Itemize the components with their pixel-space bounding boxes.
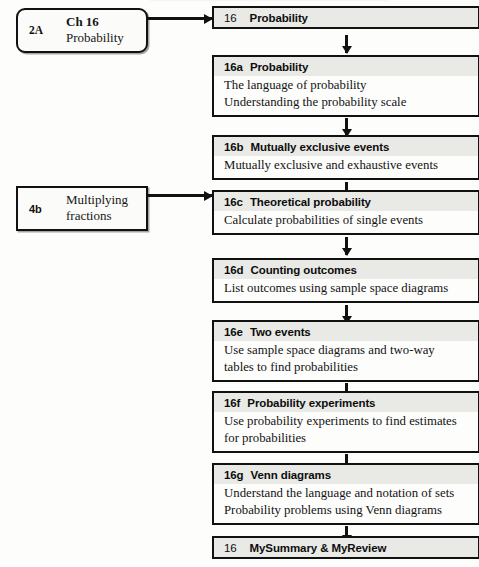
node-16[interactable]: 16Probability xyxy=(212,6,479,29)
node-16f-body: Use probability experiments to find esti… xyxy=(214,412,478,451)
node-16d-line-1: List outcomes using sample space diagram… xyxy=(224,280,470,297)
node-16b-title: Mutually exclusive events xyxy=(251,141,390,153)
node-16a-header: 16aProbability xyxy=(214,57,478,76)
prerequisite-box-4b[interactable]: 4b Multiplying fractions xyxy=(16,186,148,231)
arrow-16-to-16a xyxy=(345,35,348,53)
node-16e-line-1: Use sample space diagrams and two-way xyxy=(224,342,470,359)
arrow-4b-to-node-16c xyxy=(148,194,212,197)
node-16c-header: 16cTheoretical probability xyxy=(214,192,478,211)
node-16c[interactable]: 16cTheoretical probability Calculate pro… xyxy=(212,190,479,235)
node-16f-header: 16fProbability experiments xyxy=(214,393,478,412)
node-16c-body: Calculate probabilities of single events xyxy=(214,211,478,233)
node-16a-body: The language of probability Understandin… xyxy=(214,76,478,115)
node-16-header: 16Probability xyxy=(214,8,478,27)
node-16a-title: Probability xyxy=(250,61,308,73)
node-16g-header: 16gVenn diagrams xyxy=(214,465,478,484)
prerequisite-line2-4b: fractions xyxy=(66,209,128,226)
node-16-title: Probability xyxy=(250,12,308,24)
node-summary-header: 16MySummary & MyReview xyxy=(214,538,478,557)
node-16e[interactable]: 16eTwo events Use sample space diagrams … xyxy=(212,320,479,382)
node-16e-number: 16e xyxy=(224,326,243,338)
prerequisite-code-4b: 4b xyxy=(29,203,42,214)
node-16f-line-1: Use probability experiments to find esti… xyxy=(224,413,470,430)
node-16f-number: 16f xyxy=(224,397,240,409)
node-16d-number: 16d xyxy=(224,264,244,276)
node-16g[interactable]: 16gVenn diagrams Understand the language… xyxy=(212,463,479,525)
node-16b-body: Mutually exclusive and exhaustive events xyxy=(214,156,478,178)
node-16e-line-2: tables to find probabilities xyxy=(224,359,470,376)
scan-artifact xyxy=(150,0,390,2)
node-16e-title: Two events xyxy=(250,326,311,338)
prerequisite-line1-4b: Multiplying xyxy=(66,192,128,209)
node-summary-title: MySummary & MyReview xyxy=(250,542,387,554)
node-16f[interactable]: 16fProbability experiments Use probabili… xyxy=(212,391,479,453)
node-16d-body: List outcomes using sample space diagram… xyxy=(214,279,478,301)
node-16g-line-1: Understand the language and notation of … xyxy=(224,485,470,502)
node-16g-line-2: Probability problems using Venn diagrams xyxy=(224,502,470,519)
prerequisite-code-2a: 2A xyxy=(29,25,43,37)
node-16c-line-1: Calculate probabilities of single events xyxy=(224,212,470,229)
prerequisite-text-2a: Ch 16 Probability xyxy=(66,14,124,47)
node-16e-body: Use sample space diagrams and two-way ta… xyxy=(214,341,478,380)
node-16-mysummary-myreview[interactable]: 16MySummary & MyReview xyxy=(212,536,479,559)
node-16f-title: Probability experiments xyxy=(247,397,375,409)
node-16b-header: 16bMutually exclusive events xyxy=(214,137,478,156)
node-16g-title: Venn diagrams xyxy=(251,469,332,481)
node-16f-line-2: for probabilities xyxy=(224,430,470,447)
node-16d[interactable]: 16dCounting outcomes List outcomes using… xyxy=(212,258,479,303)
arrow-2a-to-node-16 xyxy=(148,17,212,20)
node-16a[interactable]: 16aProbability The language of probabili… xyxy=(212,55,479,117)
node-16c-number: 16c xyxy=(224,196,243,208)
node-16a-number: 16a xyxy=(224,61,243,73)
route-map-diagram: 2A Ch 16 Probability 4b Multiplying frac… xyxy=(0,0,479,567)
node-16-number: 16 xyxy=(224,12,237,24)
node-16b-number: 16b xyxy=(224,141,244,153)
node-16e-header: 16eTwo events xyxy=(214,322,478,341)
node-summary-number: 16 xyxy=(224,542,237,554)
node-16c-title: Theoretical probability xyxy=(250,196,371,208)
node-16g-number: 16g xyxy=(224,469,244,481)
prerequisite-line1-2a: Ch 16 xyxy=(66,14,124,31)
node-16b-line-1: Mutually exclusive and exhaustive events xyxy=(224,157,470,174)
prerequisite-text-4b: Multiplying fractions xyxy=(66,192,128,225)
prerequisite-line2-2a: Probability xyxy=(66,31,124,48)
node-16d-header: 16dCounting outcomes xyxy=(214,260,478,279)
node-16a-line-2: Understanding the probability scale xyxy=(224,94,470,111)
node-16g-body: Understand the language and notation of … xyxy=(214,484,478,523)
node-16a-line-1: The language of probability xyxy=(224,77,470,94)
arrow-16c-to-16d xyxy=(345,237,348,255)
node-16d-title: Counting outcomes xyxy=(251,264,357,276)
node-16b[interactable]: 16bMutually exclusive events Mutually ex… xyxy=(212,135,479,180)
prerequisite-box-2a[interactable]: 2A Ch 16 Probability xyxy=(16,8,148,53)
arrow-16a-to-16b xyxy=(345,118,348,136)
